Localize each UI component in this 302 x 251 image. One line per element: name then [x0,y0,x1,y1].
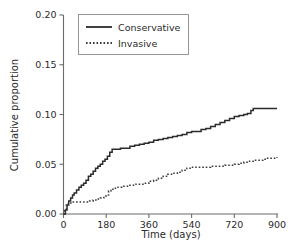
x-tick-label: 180 [97,219,115,230]
legend-label-conservative: Conservative [118,22,181,33]
x-tick-label: 0 [60,219,66,230]
y-tick-label: 0.00 [35,208,56,219]
x-tick-label: 720 [225,219,243,230]
y-tick-label: 0.10 [35,109,56,120]
y-tick-label: 0.20 [35,9,56,20]
y-axis-title: Cumulative proportion [9,59,20,171]
cumulative-proportion-chart: 0.000.050.100.150.20 0180360540720900 Ti… [0,0,302,251]
x-axis-title: Time (days) [140,229,200,240]
y-tick-label: 0.15 [35,59,56,70]
legend: Conservative Invasive [79,15,189,55]
legend-label-invasive: Invasive [118,38,157,49]
y-tick-label: 0.05 [35,159,56,170]
chart-container: 0.000.050.100.150.20 0180360540720900 Ti… [0,0,302,251]
x-tick-label: 900 [268,219,286,230]
legend-box [79,15,189,55]
